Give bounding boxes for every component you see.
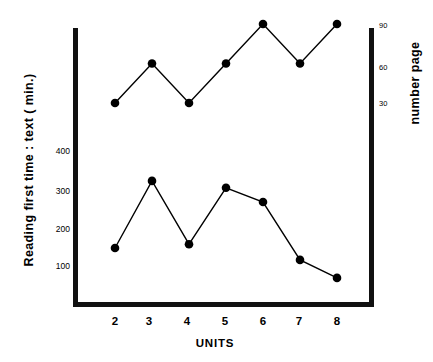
y-left-tick-label: 400 [44, 146, 70, 156]
data-point-marker [259, 198, 268, 207]
data-series-layer [111, 20, 342, 283]
data-point-marker [222, 59, 231, 68]
data-series-2 [111, 177, 342, 283]
x-tick-label: 4 [177, 315, 197, 327]
y-axis-left-title: Reading first time : text ( min.) [22, 40, 44, 300]
x-tick-label: 3 [139, 315, 159, 327]
data-point-marker [333, 274, 342, 283]
left-axis-spine [73, 28, 78, 307]
x-tick-label: 2 [105, 315, 125, 327]
y-left-tick-label: 200 [44, 224, 70, 234]
y-right-tick-label: 60 [379, 63, 399, 72]
x-tick-label: 7 [289, 315, 309, 327]
x-axis-title: UNITS [175, 337, 255, 349]
chart-figure: 2 3 4 5 6 7 8 100 200 300 400 30 60 90 R… [0, 0, 433, 362]
data-point-marker [296, 256, 305, 265]
axis-spines [73, 28, 374, 307]
bottom-axis-spine [73, 302, 374, 307]
series-line [115, 181, 337, 278]
data-series-1 [111, 20, 342, 108]
y-left-tick-label: 100 [44, 261, 70, 271]
data-point-marker [111, 244, 120, 253]
chart-plot-area [0, 0, 433, 362]
data-point-marker [111, 99, 120, 108]
data-point-marker [333, 20, 342, 29]
data-point-marker [148, 59, 157, 68]
y-right-tick-label: 90 [379, 21, 399, 30]
data-point-marker [296, 59, 305, 68]
data-point-marker [148, 177, 157, 186]
y-right-tick-label: 30 [379, 99, 399, 108]
y-left-tick-label: 300 [44, 186, 70, 196]
x-tick-label: 8 [327, 315, 347, 327]
data-point-marker [222, 184, 231, 193]
x-tick-label: 5 [215, 315, 235, 327]
data-point-marker [185, 99, 194, 108]
right-axis-spine [369, 28, 374, 307]
x-tick-label: 6 [253, 315, 273, 327]
y-axis-right-title: number page [408, 18, 428, 148]
data-point-marker [259, 20, 268, 29]
data-point-marker [185, 240, 194, 249]
